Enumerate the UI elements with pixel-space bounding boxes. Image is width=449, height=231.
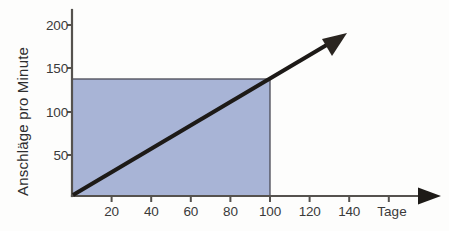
y-tick-label-100: 100	[46, 105, 68, 120]
x-tick-label-40: 40	[144, 204, 159, 219]
x-tick-label-60: 60	[183, 204, 198, 219]
x-tick-label-80: 80	[223, 204, 238, 219]
x-tick-label-120: 120	[299, 204, 321, 219]
chart-figure: 200 150 100 50 20 40 60 80 100 120 140 T…	[0, 0, 449, 231]
x-axis-arrowhead	[418, 188, 441, 205]
y-tick-label-150: 150	[46, 61, 68, 76]
y-tick-label-50: 50	[53, 148, 68, 163]
trend-line-arrowhead	[322, 33, 347, 56]
x-tick-label-140: 140	[338, 204, 360, 219]
y-axis-title: Anschläge pro Minute	[14, 47, 31, 196]
x-axis-title: Tage	[377, 204, 406, 219]
x-tick-label-100: 100	[259, 204, 281, 219]
x-tick-label-20: 20	[104, 204, 119, 219]
y-tick-label-200: 200	[46, 18, 68, 33]
